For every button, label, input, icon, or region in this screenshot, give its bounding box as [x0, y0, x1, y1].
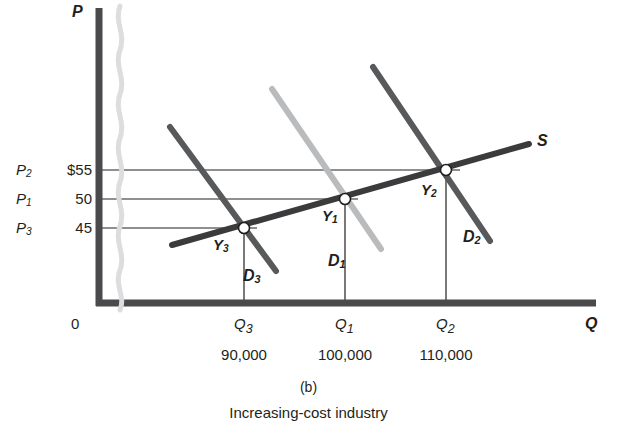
- demand-curve-d2-label-letter: D: [463, 228, 475, 245]
- demand-curve-d1-label-sub: 1: [340, 258, 346, 270]
- equilibrium-label-y2: Y2: [421, 182, 437, 199]
- equilibrium-point-y2: [441, 165, 452, 176]
- origin-label: 0: [71, 316, 79, 331]
- equilibrium-label-y2-letter: Y: [421, 181, 431, 198]
- supply-curve-label-letter: S: [537, 132, 548, 149]
- quantity-symbol-q3-letter: Q: [234, 315, 246, 332]
- demand-curve-d1-label-letter: D: [328, 252, 340, 269]
- demand-curve-d3-label-sub: 3: [255, 273, 261, 285]
- quantity-symbol-q3: Q3: [234, 316, 253, 336]
- price-value-p2: $55: [48, 162, 92, 177]
- quantity-symbol-q3-sub: 3: [246, 322, 253, 336]
- price-symbol-p3-letter: P: [16, 219, 26, 236]
- demand-curve-d1-label: D1: [328, 253, 346, 270]
- price-symbol-p2: P2: [16, 162, 32, 179]
- price-value-p3: 45: [48, 220, 92, 235]
- price-symbol-p1-letter: P: [16, 190, 26, 207]
- equilibrium-label-y1-sub: 1: [332, 214, 338, 225]
- demand-curve-d3-label: D3: [243, 268, 261, 285]
- price-value-p1: 50: [48, 191, 92, 206]
- quantity-value-q1: 100,000: [295, 347, 395, 362]
- equilibrium-label-y2-sub: 2: [431, 188, 437, 199]
- quantity-value-q2: 110,000: [396, 347, 496, 362]
- price-symbol-p2-sub: 2: [26, 168, 32, 179]
- quantity-symbol-q2-sub: 2: [448, 322, 455, 336]
- figure-caption-label: (b): [0, 380, 617, 394]
- quantity-symbol-q2: Q2: [436, 316, 455, 336]
- quantity-symbol-q1-letter: Q: [335, 315, 347, 332]
- quantity-symbol-q2-letter: Q: [436, 315, 448, 332]
- y-axis-label: P: [72, 4, 83, 20]
- price-symbol-p1-sub: 1: [26, 197, 32, 208]
- figure-container: P Q 0 P2 P1 P3 $55 50 45 Q3 Q1 Q2 90,000…: [0, 0, 617, 439]
- quantity-symbol-q1: Q1: [335, 316, 354, 336]
- economics-plot: [0, 0, 617, 439]
- equilibrium-label-y3-letter: Y: [213, 236, 223, 253]
- y-axis-break-squiggle: [118, 6, 121, 310]
- x-axis-label: Q: [585, 316, 597, 332]
- price-symbol-p3: P3: [16, 220, 32, 237]
- supply-curve-label: S: [537, 133, 548, 149]
- equilibrium-label-y1: Y1: [322, 208, 338, 225]
- demand-curve-d3-label-letter: D: [243, 267, 255, 284]
- demand-curve-d2: [373, 67, 490, 241]
- demand-curve-d2-label-sub: 2: [475, 234, 481, 246]
- quantity-value-q3: 90,000: [194, 347, 294, 362]
- equilibrium-label-y3-sub: 3: [223, 243, 229, 254]
- figure-caption-title: Increasing-cost industry: [0, 405, 617, 420]
- equilibrium-point-y3: [239, 223, 250, 234]
- quantity-symbol-q1-sub: 1: [347, 322, 354, 336]
- equilibrium-label-y3: Y3: [213, 237, 229, 254]
- demand-curve-d2-label: D2: [463, 229, 481, 246]
- equilibrium-label-y1-letter: Y: [322, 207, 332, 224]
- price-symbol-p3-sub: 3: [26, 226, 32, 237]
- price-symbol-p2-letter: P: [16, 161, 26, 178]
- equilibrium-point-y1: [340, 194, 351, 205]
- price-symbol-p1: P1: [16, 191, 32, 208]
